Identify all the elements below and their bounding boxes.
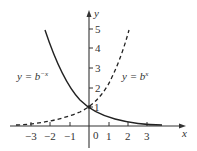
exponential-chart: −3 −2 −1 0 1 2 3 1 2 3 4 5 y x y = b−x y… bbox=[0, 0, 197, 151]
y-tick-label: 5 bbox=[95, 23, 101, 35]
x-tick-label: 3 bbox=[144, 130, 150, 142]
y-ticks bbox=[89, 29, 93, 107]
x-tick-label: 2 bbox=[125, 130, 131, 142]
eq-right: y = bx bbox=[121, 70, 149, 82]
y-axis-arrow-icon bbox=[87, 10, 92, 17]
origin-label: 0 bbox=[93, 129, 99, 141]
x-tick-label: 1 bbox=[106, 130, 112, 142]
y-tick-label: 3 bbox=[95, 62, 101, 74]
y-tick-label: 2 bbox=[95, 82, 101, 94]
x-axis-label: x bbox=[181, 127, 187, 139]
x-tick-label: −2 bbox=[44, 130, 56, 142]
intersection-point bbox=[87, 105, 91, 109]
y-tick-label: 4 bbox=[95, 42, 101, 54]
eq-left: y = b−x bbox=[16, 70, 49, 82]
x-tick-label: −1 bbox=[64, 130, 76, 142]
x-tick-label: −3 bbox=[25, 130, 37, 142]
y-axis-label: y bbox=[93, 7, 99, 19]
